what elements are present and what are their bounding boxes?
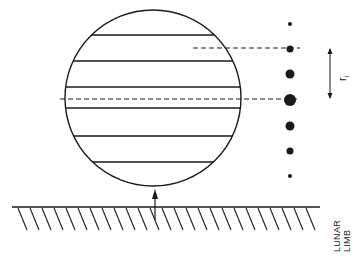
hatch-mark: [30, 208, 39, 230]
hatch-mark: [54, 208, 63, 230]
hatch-mark: [270, 208, 279, 230]
intensity-dot: [288, 22, 292, 26]
hatch-mark: [246, 208, 255, 230]
projection-dashed-lines: [60, 48, 300, 99]
dimension-ri: [328, 48, 333, 99]
intensity-dot: [286, 70, 295, 79]
hatch-mark: [222, 208, 231, 230]
arrow-head: [152, 189, 158, 199]
hatch-mark: [186, 208, 195, 230]
dimension-arrowhead-bottom: [328, 93, 333, 99]
hatch-mark: [174, 208, 183, 230]
hatch-mark: [42, 208, 51, 230]
occultation-diagram: [0, 0, 364, 268]
hatch-mark: [90, 208, 99, 230]
ri-dimension-label: ri: [336, 76, 350, 81]
hatch-mark: [138, 208, 147, 230]
hatch-mark: [258, 208, 267, 230]
intensity-dot: [284, 94, 296, 106]
lunar-limb-ground: [12, 207, 320, 230]
hatch-mark: [198, 208, 207, 230]
intensity-dots: [284, 22, 296, 178]
hatch-mark: [114, 208, 123, 230]
source-circle: [65, 10, 241, 186]
hatch-mark: [18, 208, 27, 230]
striped-source-disk: [65, 10, 241, 186]
hatch-mark: [234, 208, 243, 230]
intensity-dot: [287, 148, 294, 155]
hatch-mark: [66, 208, 75, 230]
label-limb: LIMB: [342, 220, 352, 252]
hatch-mark: [282, 208, 291, 230]
hatch-mark: [126, 208, 135, 230]
hatch-mark: [306, 208, 315, 230]
hatch-mark: [294, 208, 303, 230]
ri-subscript: i: [343, 76, 350, 78]
label-lunar: LUNAR: [332, 220, 342, 252]
dimension-arrowhead-top: [328, 48, 333, 54]
hatch-mark: [162, 208, 171, 230]
lunar-limb-label: LUNAR LIMB: [332, 220, 352, 252]
intensity-dot: [288, 174, 292, 178]
hatch-mark: [102, 208, 111, 230]
hatch-mark: [78, 208, 87, 230]
intensity-dot: [286, 122, 295, 131]
ri-main: r: [336, 77, 348, 81]
hatch-mark: [210, 208, 219, 230]
intensity-dot: [287, 46, 294, 53]
